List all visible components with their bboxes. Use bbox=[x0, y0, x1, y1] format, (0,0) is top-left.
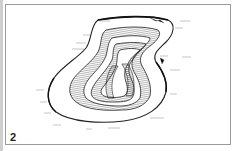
inner-wall-right bbox=[122, 64, 134, 96]
terraced-basin-drawing bbox=[0, 0, 234, 151]
panel-number: 2 bbox=[10, 131, 16, 143]
